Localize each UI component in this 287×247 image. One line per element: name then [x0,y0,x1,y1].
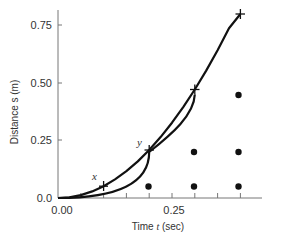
x-tick-label: 0.25 [163,204,184,216]
y-tick-label: 0.0 [37,192,52,204]
y-tick-label: 0.25 [31,134,52,146]
annotation-x: x [91,170,97,182]
chart: 0.75 0.50 0.25 0.0 0.00 0.25 Time t (sec… [0,0,287,247]
scatter-dots [145,92,241,190]
x-tick-label: 0.00 [51,204,72,216]
curve [58,14,240,198]
y-tick-label: 0.75 [31,19,52,31]
y-ticks [58,25,62,140]
y-axis-label: Distance s (m) [9,80,20,144]
curve-line [58,95,195,199]
cross-markers [99,9,245,191]
annotation-y: y [136,136,142,148]
x-axis-label: Time t (sec) [132,221,184,232]
y-tick-label: 0.50 [31,77,52,89]
